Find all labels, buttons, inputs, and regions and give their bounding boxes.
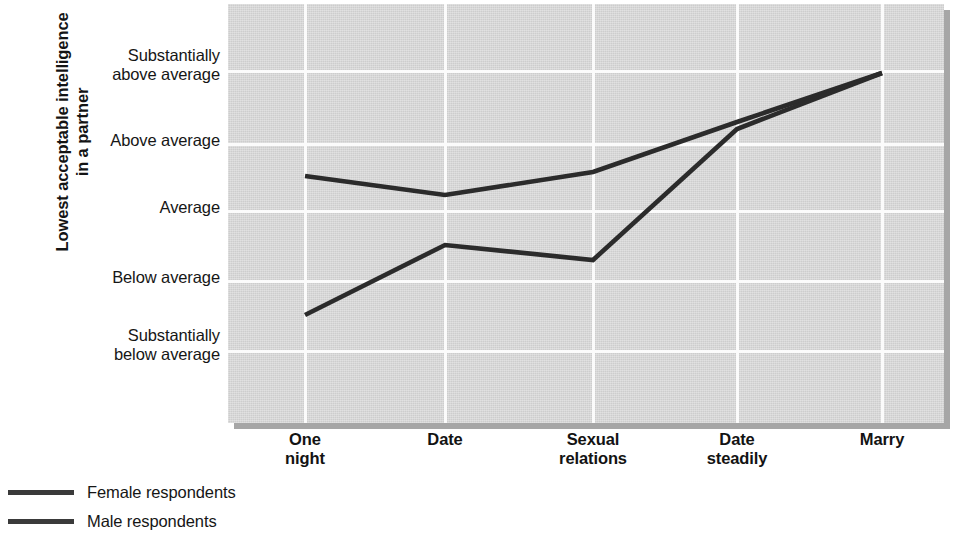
legend-label-male-respondents: Male respondents [87,512,217,531]
gridline-vertical-date [444,4,447,423]
chart-legend: Female respondents Male respondents [8,478,428,536]
y-tick-label-below-average: Below average [24,268,220,287]
y-axis-tick-labels: Substantially above average Above averag… [24,0,220,430]
y-tick-label-substantially-above-average: Substantially above average [24,46,220,85]
gridline-horizontal-2 [228,280,944,283]
gridline-horizontal-1 [228,350,944,353]
legend-item-male-respondents: Male respondents [8,507,428,536]
gridline-horizontal-5 [228,70,944,73]
y-tick-label-substantially-below-average: Substantially below average [24,326,220,365]
gridline-horizontal-3 [228,210,944,213]
legend-swatch-female-respondents [8,490,74,495]
x-axis-tick-labels: One night Date Sexual relations Date ste… [0,430,958,478]
legend-swatch-male-respondents [8,519,74,524]
plot-area [228,4,944,423]
plot-texture [228,4,944,423]
gridline-vertical-marry [881,4,884,423]
gridline-vertical-date-steadily [736,4,739,423]
x-tick-label-marry: Marry [797,430,958,449]
x-tick-label-date: Date [360,430,530,449]
gridline-vertical-sexual-relations [592,4,595,423]
gridline-vertical-one-night [304,4,307,423]
legend-item-female-respondents: Female respondents [8,478,428,507]
chart-figure: Lowest acceptable intelligence in a part… [0,0,958,538]
gridline-horizontal-4 [228,143,944,146]
y-tick-label-above-average: Above average [24,131,220,150]
legend-label-female-respondents: Female respondents [87,483,236,502]
y-tick-label-average: Average [24,198,220,217]
